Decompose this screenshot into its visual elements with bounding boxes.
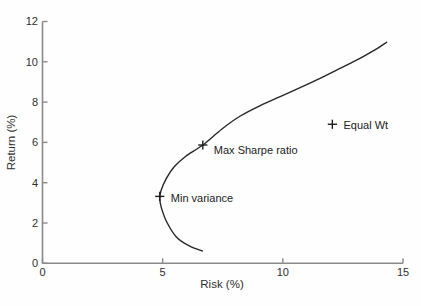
y-tick-label: 10	[26, 56, 38, 68]
marker-equal-wt	[328, 120, 337, 129]
efficient-frontier-chart: 051015024681012Risk (%)Return (%)Min var…	[0, 0, 421, 306]
annotation-label-max-sharpe: Max Sharpe ratio	[214, 144, 298, 156]
y-tick-label: 4	[32, 177, 38, 189]
y-tick-label: 2	[32, 217, 38, 229]
y-tick-label: 6	[32, 136, 38, 148]
x-axis-title: Risk (%)	[200, 278, 244, 290]
annotation-label-equal-wt: Equal Wt	[344, 119, 389, 131]
efficient-frontier-figure: 051015024681012Risk (%)Return (%)Min var…	[0, 0, 421, 306]
x-tick-label: 5	[160, 266, 166, 278]
x-tick-label: 10	[277, 266, 289, 278]
x-tick-label: 0	[39, 266, 45, 278]
y-tick-label: 0	[32, 257, 38, 269]
x-tick-label: 15	[397, 266, 409, 278]
y-tick-label: 12	[26, 15, 38, 27]
marker-min-variance	[155, 192, 164, 201]
annotation-label-min-variance: Min variance	[171, 192, 233, 204]
y-tick-label: 8	[32, 96, 38, 108]
y-axis-title: Return (%)	[5, 115, 17, 171]
